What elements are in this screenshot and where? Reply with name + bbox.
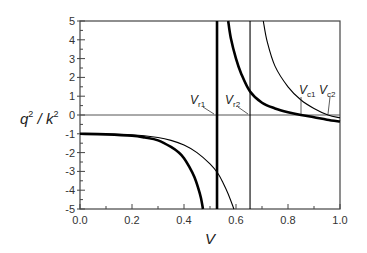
x-tick-label: 0.8 bbox=[280, 214, 295, 226]
annotation-c1: Vc1 bbox=[299, 83, 316, 99]
y-tick-label: 2 bbox=[69, 71, 75, 83]
y-tick-label: -5 bbox=[65, 203, 75, 215]
annotation-r2: Vr2 bbox=[225, 93, 241, 109]
x-axis-title: V bbox=[205, 230, 217, 247]
y-tick-label: 5 bbox=[69, 15, 75, 27]
tick-labels: 0.00.20.40.60.81.0543210-1-2-3-4-5 bbox=[65, 15, 347, 226]
y-tick-label: 1 bbox=[69, 90, 75, 102]
thin-curve bbox=[263, 21, 340, 118]
y-tick-label: 3 bbox=[69, 53, 75, 65]
y-tick-label: -2 bbox=[65, 147, 75, 159]
x-tick-label: 1.0 bbox=[332, 214, 347, 226]
y-tick-label: -1 bbox=[65, 128, 75, 140]
x-tick-label: 0.4 bbox=[176, 214, 191, 226]
y-axis-title: q2 / k2 bbox=[20, 109, 58, 127]
chart: 0.00.20.40.60.81.0543210-1-2-3-4-5 Vr1Vr… bbox=[0, 0, 367, 253]
y-tick-label: 0 bbox=[69, 109, 75, 121]
annotation-r1: Vr1 bbox=[190, 93, 206, 109]
x-tick-label: 0.2 bbox=[124, 214, 139, 226]
annotation-leader-c2 bbox=[328, 97, 330, 114]
y-tick-label: 4 bbox=[69, 34, 75, 46]
y-title-k-exp: 2 bbox=[53, 109, 58, 119]
y-title-sep: / bbox=[33, 110, 46, 127]
x-tick-label: 0.0 bbox=[72, 214, 87, 226]
thick-curve bbox=[228, 21, 340, 122]
y-tick-label: -3 bbox=[65, 165, 75, 177]
annotations: Vr1Vr2Vc1Vc2 bbox=[190, 83, 336, 114]
y-tick-label: -4 bbox=[65, 184, 75, 196]
x-tick-label: 0.6 bbox=[228, 214, 243, 226]
thin-curve bbox=[80, 134, 234, 209]
annotation-c2: Vc2 bbox=[319, 83, 336, 99]
